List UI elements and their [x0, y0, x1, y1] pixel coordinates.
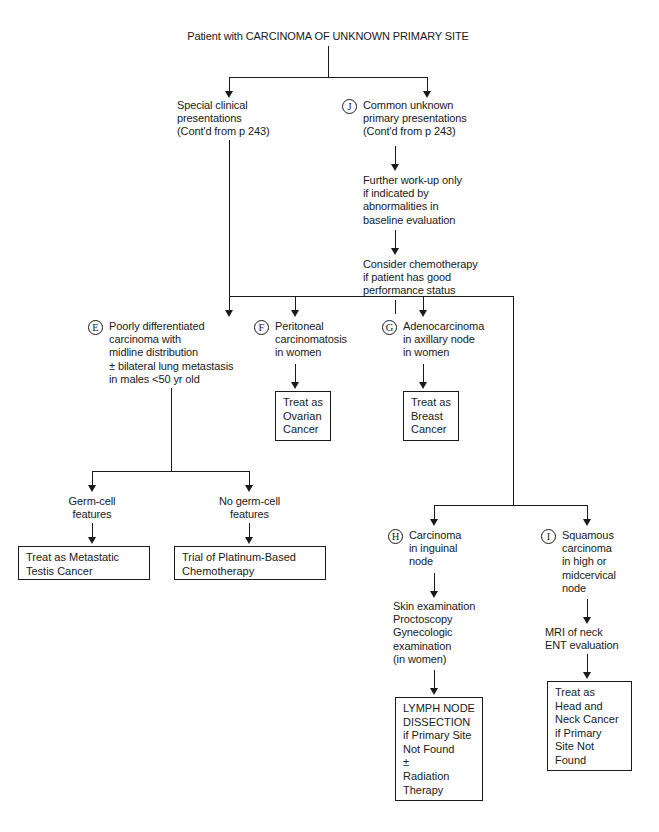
arrowhead-f — [291, 310, 299, 317]
arrowhead-h — [430, 519, 438, 526]
arrowhead-germcell — [88, 485, 96, 492]
box-treat-metastatic-testis: Treat as Metastatic Testis Cancer — [18, 546, 150, 580]
node-no-germ-cell: No germ-cell features — [197, 495, 302, 521]
node-mri-neck: MRI of neck ENT evaluation — [545, 626, 655, 652]
node-peritoneal: Peritoneal carcinomatosis in women — [275, 320, 390, 360]
arrowhead-i — [583, 519, 591, 526]
arrowhead-treat-testis — [88, 537, 96, 544]
flowchart-canvas: Patient with CARCINOMA OF UNKNOWN PRIMAR… — [0, 0, 659, 832]
arrowhead-treat-head-neck — [583, 672, 591, 679]
box-trial-platinum-chemo: Trial of Platinum-Based Chemotherapy — [174, 546, 326, 580]
marker-h: H — [388, 529, 403, 544]
box-lymph-node-dissection: LYMPH NODE DISSECTION if Primary Site No… — [395, 697, 483, 801]
connector-germcell-split-bar — [92, 471, 249, 472]
arrowhead-treat-breast — [419, 382, 427, 389]
arrowhead-further-workup — [391, 164, 399, 171]
box-treat-head-neck-cancer: Treat as Head and Neck Cancer if Primary… — [547, 681, 632, 771]
node-inguinal: Carcinoma in inguinal node — [409, 529, 504, 569]
node-squamous: Squamous carcinoma in high or midcervica… — [562, 529, 657, 595]
node-consider-chemo: Consider chemotherapy if patient has goo… — [363, 258, 528, 298]
arrowhead-special-clinical — [225, 91, 233, 98]
arrowhead-mri-neck — [583, 617, 591, 624]
connector-chemo-stem — [395, 300, 396, 314]
node-common-unknown: Common unknown primary presentations (Co… — [363, 99, 523, 139]
arrowhead-treat-ovarian — [291, 382, 299, 389]
connector-special-clinical-drop — [229, 140, 230, 296]
node-root-title: Patient with CARCINOMA OF UNKNOWN PRIMAR… — [178, 30, 478, 43]
arrowhead-trial-platinum — [245, 537, 253, 544]
box-treat-breast-cancer: Treat as Breast Cancer — [403, 391, 459, 441]
arrowhead-g — [419, 310, 427, 317]
marker-e: E — [88, 320, 103, 335]
arrowhead-skin-exam — [430, 591, 438, 598]
connector-root-split — [229, 77, 428, 78]
node-special-clinical: Special clinical presentations (Cont'd f… — [177, 99, 307, 139]
arrowhead-common-unknown — [423, 91, 431, 98]
node-germ-cell: Germ-cell features — [42, 495, 142, 521]
arrowhead-no-germcell — [245, 485, 253, 492]
node-adeno-axillary: Adenocarcinoma in axillary node in women — [403, 320, 533, 360]
arrowhead-consider-chemo — [391, 248, 399, 255]
node-skin-exam: Skin examination Proctoscopy Gynecologic… — [393, 600, 508, 666]
marker-g: G — [382, 320, 397, 335]
connector-hi-split-bar — [434, 505, 587, 506]
marker-f: F — [254, 320, 269, 335]
marker-j: J — [342, 99, 357, 114]
node-further-workup: Further work-up only if indicated by abn… — [363, 174, 523, 227]
arrowhead-lymph-dissection — [430, 688, 438, 695]
connector-main-split-bar — [229, 296, 514, 297]
connector-root-stem — [328, 46, 329, 78]
marker-i: I — [541, 529, 556, 544]
box-treat-ovarian-cancer: Treat as Ovarian Cancer — [275, 391, 331, 441]
connector-e-drop — [171, 388, 172, 472]
arrowhead-e — [225, 310, 233, 317]
